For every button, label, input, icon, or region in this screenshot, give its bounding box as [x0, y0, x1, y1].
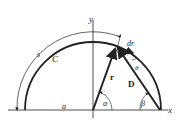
semicircle-vector-diagram: y x s C a r dr D α β θ	[0, 0, 184, 127]
label-beta: β	[140, 99, 145, 108]
label-c: C	[52, 54, 59, 64]
label-y: y	[88, 14, 93, 24]
label-r: r	[110, 72, 114, 82]
label-s: s	[37, 50, 40, 59]
label-alpha: α	[103, 99, 108, 108]
label-dr: dr	[127, 39, 135, 48]
label-a: a	[62, 102, 66, 111]
label-x: x	[167, 105, 172, 115]
label-d: D	[128, 79, 135, 89]
label-theta: θ	[135, 64, 139, 72]
angle-theta-arc	[132, 58, 137, 60]
